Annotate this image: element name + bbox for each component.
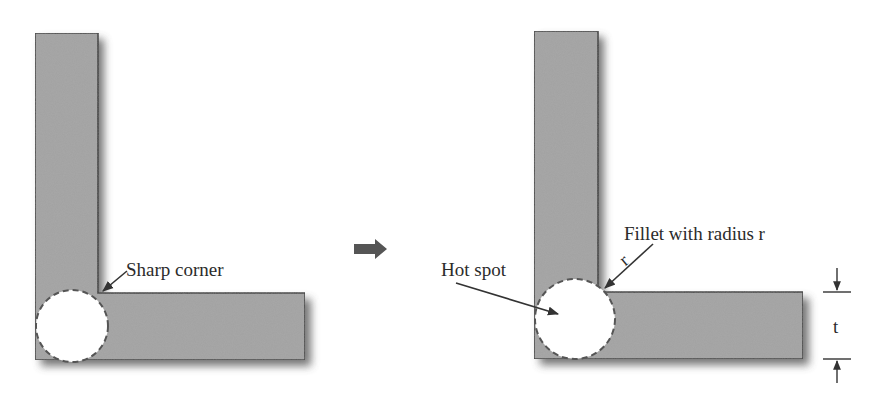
thickness-symbol-label: t xyxy=(833,316,839,337)
hotspot-circle-right xyxy=(535,279,615,359)
hotspot-circle-left xyxy=(36,290,108,362)
sharp-corner-leader-arrow xyxy=(103,271,127,291)
radius-symbol-label: r xyxy=(615,250,632,269)
sharp-corner-label: Sharp corner xyxy=(126,259,224,280)
l-shape-fillet-diagram: Sharp corner Fillet with radius r r Hot … xyxy=(0,0,878,413)
thickness-dimension: t xyxy=(823,268,851,383)
hotspot-label: Hot spot xyxy=(441,259,507,280)
right-panel-filleted-corner: Fillet with radius r r Hot spot t xyxy=(441,31,851,383)
fillet-label: Fillet with radius r xyxy=(624,223,766,244)
right-arrow-icon xyxy=(354,239,387,259)
transition-arrow xyxy=(354,239,387,259)
left-panel-sharp-corner: Sharp corner xyxy=(35,33,311,366)
